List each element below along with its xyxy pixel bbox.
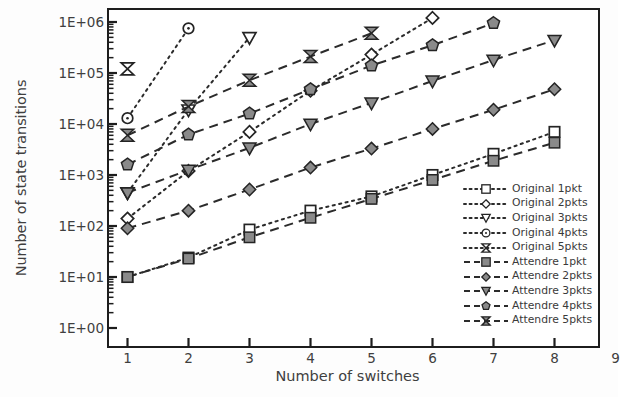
x-tick-label: 8 xyxy=(540,350,570,366)
series-attendre-3pkts xyxy=(121,35,561,199)
marker-diamond xyxy=(365,142,377,154)
marker-square xyxy=(366,194,376,204)
marker-bowtie xyxy=(365,27,378,39)
marker-circle-dot xyxy=(187,27,190,30)
legend-label: Original 3pkts xyxy=(509,213,588,224)
marker-pentagon xyxy=(243,107,255,119)
legend-item[interactable]: Original 5pkts xyxy=(463,240,597,255)
legend-item[interactable]: Attendre 2pkts xyxy=(463,270,597,285)
marker-diamond xyxy=(426,123,438,135)
legend-item[interactable]: Original 1pkt xyxy=(463,182,597,197)
marker-triangle-down xyxy=(121,188,134,200)
legend-item[interactable]: Attendre 5pkts xyxy=(463,313,597,328)
marker-pentagon xyxy=(182,128,194,140)
series-line xyxy=(128,28,189,118)
x-tick-label: 5 xyxy=(357,350,387,366)
y-tick-label: 1E+01 xyxy=(18,269,104,285)
legend-item[interactable]: Attendre 4pkts xyxy=(463,299,597,314)
legend-label: Attendre 1pkt xyxy=(509,257,587,268)
marker-pentagon xyxy=(304,83,316,95)
marker-square xyxy=(305,213,315,223)
marker-diamond xyxy=(121,222,133,234)
marker-square xyxy=(244,232,254,242)
legend-item[interactable]: Original 3pkts xyxy=(463,211,597,226)
marker-diamond xyxy=(426,12,438,24)
y-tick-label: 1E+03 xyxy=(18,167,104,183)
marker-bowtie xyxy=(243,74,256,86)
marker-diamond xyxy=(243,183,255,195)
legend-symbol xyxy=(463,270,509,284)
legend-symbol xyxy=(463,226,509,240)
x-tick-label: 2 xyxy=(174,350,204,366)
marker-diamond xyxy=(182,204,194,216)
marker-bowtie xyxy=(121,63,134,75)
legend-label: Attendre 4pkts xyxy=(509,301,592,312)
legend-marker xyxy=(482,258,490,266)
marker-square xyxy=(549,137,559,147)
marker-diamond xyxy=(304,161,316,173)
marker-triangle-down xyxy=(304,119,317,131)
marker-pentagon xyxy=(121,158,133,170)
legend-symbol xyxy=(463,211,509,225)
legend-marker xyxy=(482,229,490,237)
legend-label: Original 1pkt xyxy=(509,184,582,195)
legend-symbol xyxy=(463,255,509,269)
y-tick-label: 1E+00 xyxy=(18,320,104,336)
y-tick-label: 1E+02 xyxy=(18,218,104,234)
chart-legend: Original 1pktOriginal 2pktsOriginal 3pkt… xyxy=(463,182,597,328)
legend-label: Attendre 5pkts xyxy=(509,315,592,326)
y-tick-label: 1E+04 xyxy=(18,116,104,132)
legend-symbol xyxy=(463,197,509,211)
marker-diamond xyxy=(548,83,560,95)
marker-diamond xyxy=(243,126,255,138)
x-tick-label: 6 xyxy=(418,350,448,366)
legend-symbol xyxy=(463,314,509,328)
marker-bowtie xyxy=(304,51,317,63)
legend-label: Attendre 2pkts xyxy=(509,271,592,282)
marker-pentagon xyxy=(426,39,438,51)
marker-pentagon xyxy=(365,59,377,71)
marker-circle-dot xyxy=(126,117,129,120)
legend-marker xyxy=(482,185,490,193)
legend-item[interactable]: Attendre 1pkt xyxy=(463,255,597,270)
x-tick-label: 3 xyxy=(235,350,265,366)
legend-symbol xyxy=(463,284,509,298)
legend-label: Attendre 3pkts xyxy=(509,286,592,297)
marker-square xyxy=(183,253,193,263)
x-tick-label: 9 xyxy=(601,350,624,366)
marker-triangle-down xyxy=(487,55,500,67)
legend-marker xyxy=(482,302,490,310)
marker-diamond xyxy=(487,104,499,116)
x-tick-label: 7 xyxy=(479,350,509,366)
x-tick-label: 4 xyxy=(296,350,326,366)
marker-pentagon xyxy=(487,17,499,29)
marker-square xyxy=(488,156,498,166)
legend-label: Original 4pkts xyxy=(509,228,588,239)
legend-symbol xyxy=(463,182,509,196)
legend-item[interactable]: Original 2pkts xyxy=(463,197,597,212)
series-attendre-4pkts xyxy=(121,17,499,170)
series-line xyxy=(128,18,433,219)
legend-item[interactable]: Attendre 3pkts xyxy=(463,284,597,299)
legend-marker xyxy=(482,200,490,208)
marker-square xyxy=(122,272,132,282)
y-tick-label: 1E+05 xyxy=(18,65,104,81)
x-axis-title: Number of switches xyxy=(95,368,600,384)
x-tick-label: 1 xyxy=(113,350,143,366)
marker-square xyxy=(427,175,437,185)
legend-item[interactable]: Original 4pkts xyxy=(463,226,597,241)
legend-marker xyxy=(482,273,490,281)
marker-square xyxy=(549,127,559,137)
y-tick-label: 1E+06 xyxy=(18,14,104,30)
marker-bowtie xyxy=(121,129,134,141)
legend-label: Original 2pkts xyxy=(509,198,588,209)
marker-triangle-down xyxy=(548,35,561,47)
legend-symbol xyxy=(463,299,509,313)
legend-label: Original 5pkts xyxy=(509,242,588,253)
y-axis-tick-labels: 1E+001E+011E+021E+031E+041E+051E+06 xyxy=(18,0,104,397)
legend-symbol xyxy=(463,241,509,255)
series-original-5pkts xyxy=(121,63,134,75)
